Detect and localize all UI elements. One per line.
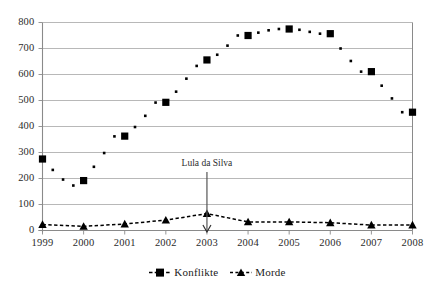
data-point-konflikte-quarter: [267, 29, 270, 32]
data-point-konflikte-year: [409, 109, 416, 116]
data-point-konflikte-quarter: [51, 169, 54, 172]
data-point-konflikte-quarter: [278, 28, 281, 31]
data-point-konflikte-quarter: [319, 32, 322, 35]
legend-label-morde: Morde: [255, 266, 285, 278]
x-axis-tick-label: 2002: [144, 237, 188, 248]
y-axis-tick-label: 400: [0, 120, 35, 131]
data-point-konflikte-quarter: [236, 34, 239, 37]
triangle-marker-icon: [230, 267, 252, 278]
y-axis-tick-label: 0: [0, 224, 35, 235]
annotation-lula-da-silva-label: Lula da Silva: [147, 158, 267, 168]
data-point-konflikte-quarter: [103, 152, 106, 155]
data-point-konflikte-year: [286, 25, 293, 32]
legend-label-konflikte: Konflikte: [174, 266, 218, 278]
data-point-konflikte-quarter: [298, 28, 301, 31]
x-axis-tick-label: 2008: [391, 237, 435, 248]
annotation-arrow: [203, 172, 211, 232]
y-axis-tick-label: 500: [0, 94, 35, 105]
data-point-konflikte-year: [80, 177, 87, 184]
plot-area: [0, 0, 435, 295]
y-axis-tick-label: 100: [0, 198, 35, 209]
series-morde: [38, 209, 416, 229]
data-point-konflikte-quarter: [360, 70, 363, 73]
data-point-morde: [121, 220, 129, 228]
data-point-konflikte-quarter: [380, 84, 383, 87]
x-axis-tick-label: 2004: [226, 237, 270, 248]
data-point-konflikte-quarter: [391, 97, 394, 100]
data-point-konflikte-quarter: [350, 60, 353, 63]
data-point-konflikte-quarter: [72, 184, 75, 187]
data-point-konflikte-quarter: [62, 178, 65, 181]
data-point-konflikte-year: [368, 68, 375, 75]
square-marker-icon: [149, 267, 171, 278]
chart-legend: Konflikte Morde: [0, 266, 435, 278]
x-axis-tick-label: 1999: [21, 237, 65, 248]
data-point-konflikte-quarter: [144, 115, 147, 118]
data-point-konflikte-quarter: [308, 31, 311, 34]
y-axis-tick-label: 800: [0, 16, 35, 27]
x-axis-tick-label: 2007: [349, 237, 393, 248]
data-point-konflikte-year: [244, 32, 251, 39]
data-point-morde: [162, 216, 170, 224]
data-point-konflikte-year: [121, 133, 128, 140]
gridlines: [43, 23, 413, 231]
x-axis-tick-label: 2006: [308, 237, 352, 248]
data-point-konflikte-year: [162, 99, 169, 106]
x-axis-tick-label: 2005: [267, 237, 311, 248]
data-point-konflikte-quarter: [175, 90, 178, 93]
morde-line: [43, 214, 413, 227]
y-axis-tick-label: 600: [0, 68, 35, 79]
legend-item-morde[interactable]: Morde: [230, 266, 285, 278]
data-point-konflikte-year: [203, 56, 210, 63]
y-axis-tick-label: 200: [0, 172, 35, 183]
x-axis-tick-label: 2000: [62, 237, 106, 248]
data-point-konflikte-quarter: [257, 31, 260, 34]
data-point-konflikte-quarter: [226, 44, 229, 47]
chart-figure: 0100200300400500600700800 19992000200120…: [0, 0, 435, 295]
data-point-konflikte-quarter: [195, 65, 198, 68]
x-axis-tick-label: 2001: [103, 237, 147, 248]
y-axis-tick-label: 700: [0, 42, 35, 53]
axes: [39, 23, 413, 235]
data-point-konflikte-quarter: [401, 111, 404, 114]
data-point-konflikte-quarter: [113, 135, 116, 138]
data-point-konflikte-year: [327, 30, 334, 37]
legend-item-konflikte[interactable]: Konflikte: [149, 266, 218, 278]
y-axis-tick-label: 300: [0, 146, 35, 157]
data-point-konflikte-quarter: [185, 77, 188, 80]
data-point-konflikte-quarter: [93, 166, 96, 169]
data-point-konflikte-quarter: [216, 53, 219, 56]
data-point-konflikte-quarter: [134, 126, 137, 129]
data-point-konflikte-quarter: [339, 47, 342, 50]
data-point-konflikte-year: [39, 155, 46, 162]
x-axis-tick-label: 2003: [185, 237, 229, 248]
data-point-konflikte-quarter: [154, 101, 157, 104]
